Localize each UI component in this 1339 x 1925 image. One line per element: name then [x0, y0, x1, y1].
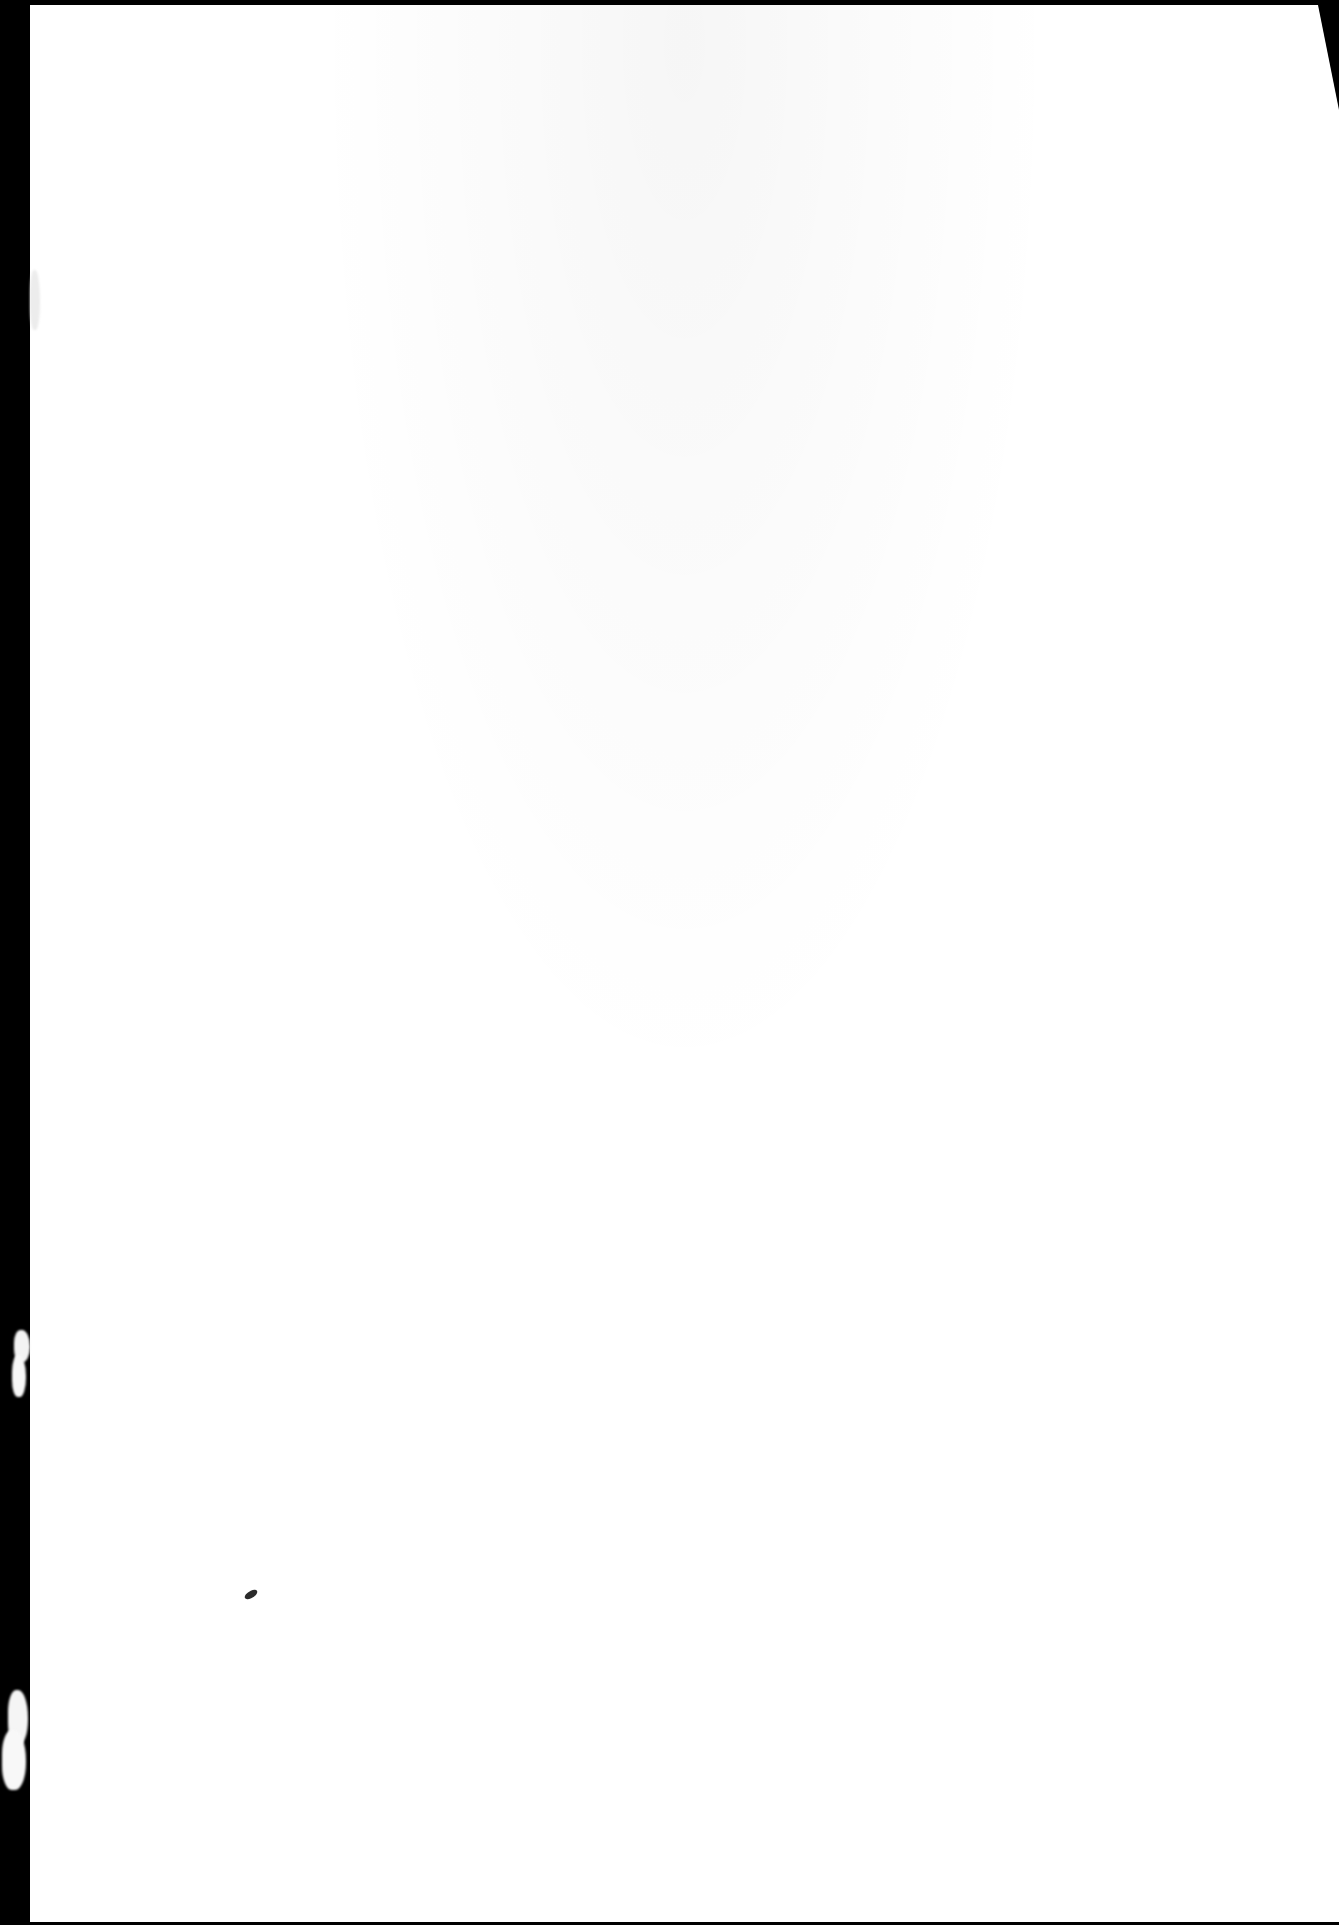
blank-paper-sheet	[30, 5, 1339, 1922]
ink-speck	[243, 1588, 259, 1600]
scanned-page	[0, 0, 1339, 1925]
left-edge-tear	[12, 1355, 26, 1397]
left-edge-tear	[2, 1730, 26, 1790]
corner-fold	[1317, 0, 1339, 110]
left-edge-smudge	[30, 270, 40, 330]
